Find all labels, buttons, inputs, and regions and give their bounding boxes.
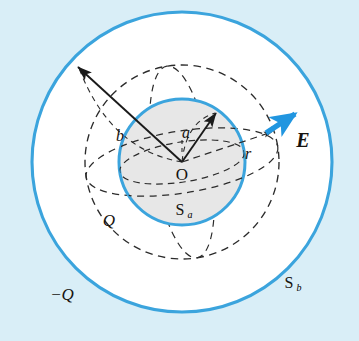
label-Sa-subscript: a (188, 209, 193, 220)
label-inner-charge-Q: Q (103, 211, 115, 230)
label-radius-r: r (245, 145, 252, 162)
physics-diagram-spherical-capacitor: O a b r E Q −Q S a S b (0, 0, 359, 341)
label-center-O: O (176, 165, 188, 184)
label-Sb-subscript: b (297, 282, 302, 293)
label-radius-a: a (182, 124, 190, 141)
label-Sb-main: S (285, 274, 294, 291)
label-outer-charge-minus-Q: −Q (50, 285, 74, 304)
label-radius-b: b (116, 127, 124, 144)
label-Sa-main: S (176, 201, 185, 218)
label-field-vector-E: E (295, 129, 309, 151)
